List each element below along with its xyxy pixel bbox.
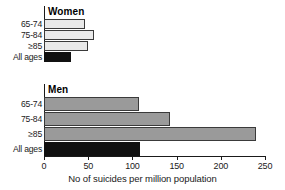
bar: [44, 41, 88, 51]
x-axis-title: No of suicides per million population: [0, 173, 285, 184]
bar: [44, 97, 139, 111]
panel-title-men: Men: [48, 84, 68, 95]
category-label: 75-84: [0, 31, 42, 40]
x-tick-label: 0: [29, 161, 59, 171]
category-label: 75-84: [0, 115, 42, 124]
bar: [44, 112, 170, 126]
category-label: 65-74: [0, 100, 42, 109]
x-axis-line: [44, 156, 266, 157]
x-tick: [88, 156, 89, 160]
category-label: All ages: [0, 53, 42, 62]
category-label: All ages: [0, 145, 42, 154]
bar: [44, 30, 94, 40]
x-tick: [221, 156, 222, 160]
x-tick: [132, 156, 133, 160]
x-tick-label: 50: [73, 161, 103, 171]
chart-figure: Women 65-7475-84≥85All ages Men 65-7475-…: [0, 0, 285, 190]
bar: [44, 127, 256, 141]
x-tick-label: 150: [162, 161, 192, 171]
category-label: ≥85: [0, 42, 42, 51]
category-label: 65-74: [0, 20, 42, 29]
bar: [44, 19, 85, 29]
bar: [44, 142, 140, 156]
category-label: ≥85: [0, 130, 42, 139]
x-tick: [177, 156, 178, 160]
panel-title-women: Women: [48, 6, 84, 17]
x-tick-label: 100: [117, 161, 147, 171]
x-tick: [265, 156, 266, 160]
x-tick-label: 250: [250, 161, 280, 171]
x-tick: [44, 156, 45, 160]
x-tick-label: 200: [206, 161, 236, 171]
bar: [44, 52, 71, 62]
